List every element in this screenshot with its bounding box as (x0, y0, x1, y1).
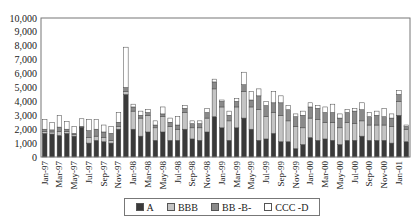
legend: A BBB BB -B- CCC -D (124, 198, 320, 216)
bar-segment (153, 121, 158, 125)
x-tick-label: Mar-97 (54, 161, 64, 188)
bar-segment (389, 126, 394, 143)
bar-segment (330, 140, 335, 157)
bar-segment (315, 108, 320, 119)
bar-segment (94, 136, 99, 140)
x-tick-label: Mar-99 (232, 161, 242, 188)
bar-segment (153, 140, 158, 157)
bar-segment (352, 108, 357, 111)
bar-segment (397, 90, 402, 94)
bar-segment (360, 110, 365, 121)
x-tick-label: May-00 (335, 161, 345, 190)
bar-segment (160, 107, 165, 114)
bar-segment (242, 92, 247, 118)
bar-segment (323, 122, 328, 139)
bar-segment (375, 140, 380, 157)
y-tick-label: 1,000 (15, 138, 38, 149)
bar-segment (65, 133, 70, 157)
bar-stack (175, 117, 180, 157)
bar-segment (389, 118, 394, 126)
bar-segment (168, 122, 173, 126)
bar-segment (308, 138, 313, 157)
bar-segment (175, 129, 180, 140)
bar-segment (131, 107, 136, 111)
y-tick-label: 9,000 (15, 26, 38, 37)
x-tick-label: May-98 (158, 161, 168, 190)
x-tick-label: Jan-97 (40, 161, 50, 185)
bar-segment (293, 117, 298, 127)
bar-segment (256, 89, 261, 96)
bar-stack (279, 96, 284, 157)
legend-label-bbb: BBB (178, 202, 198, 213)
bar-segment (79, 119, 84, 127)
bar-segment (160, 117, 165, 132)
bar-stack (323, 107, 328, 157)
bar-segment (234, 101, 239, 107)
bar-segment (301, 144, 306, 157)
bar-segment (168, 126, 173, 140)
bar-segment (42, 131, 47, 133)
bar-segment (197, 121, 202, 124)
bar-stack (190, 121, 195, 157)
bar-segment (382, 140, 387, 157)
y-tick-label: 10,000 (10, 13, 38, 24)
bar-segment (279, 142, 284, 157)
bar-segment (271, 113, 276, 134)
bar-segment (367, 140, 372, 157)
bar-stack (389, 114, 394, 157)
bar-stack (205, 108, 210, 157)
bar-segment (146, 132, 151, 157)
y-tick-label: 6,000 (15, 68, 38, 79)
bar-segment (234, 128, 239, 157)
y-tick-label: 3,000 (15, 110, 38, 121)
stacked-bar-chart: 01,0002,0003,0004,0005,0006,0007,0008,00… (0, 0, 417, 224)
bar-segment (345, 122, 350, 140)
x-tick-label: Jul-99 (261, 161, 271, 184)
bar-segment (227, 115, 232, 121)
bar-segment (234, 107, 239, 128)
bar-segment (94, 119, 99, 129)
bar-segment (242, 118, 247, 157)
bar-stack (138, 111, 143, 157)
bar-segment (124, 47, 129, 87)
bar-segment (109, 126, 114, 133)
x-tick-label: Sep-98 (187, 161, 197, 187)
bar-segment (249, 129, 254, 157)
bar-segment (338, 118, 343, 128)
bar-stack (264, 101, 269, 157)
bar-segment (197, 140, 202, 157)
bar-stack (42, 119, 47, 157)
y-tick-label: 7,000 (15, 54, 38, 65)
bar-segment (101, 125, 106, 132)
bar-segment (116, 113, 121, 123)
bar-segment (153, 128, 158, 141)
bar-segment (146, 113, 151, 116)
bar-segment (301, 128, 306, 145)
bar-segment (220, 100, 225, 101)
bar-segment (404, 142, 409, 157)
bar-stack (87, 119, 92, 157)
bar-segment (87, 119, 92, 130)
bar-stack (212, 79, 217, 157)
bar-stack (352, 108, 357, 157)
bar-segment (190, 121, 195, 124)
bar-stack (338, 114, 343, 157)
bar-segment (330, 113, 335, 123)
bar-segment (264, 101, 269, 105)
bar-segment (72, 136, 77, 157)
bar-stack (50, 122, 55, 157)
x-tick-label: Sep-99 (276, 161, 286, 187)
bar-segment (367, 113, 372, 117)
bar-segment (57, 135, 62, 157)
x-tick-label: Jan-98 (128, 161, 138, 185)
bar-segment (256, 110, 261, 141)
bars (42, 47, 408, 157)
bar-segment (404, 125, 409, 126)
bar-stack (286, 106, 291, 157)
bar-segment (279, 115, 284, 141)
bar-segment (57, 115, 62, 127)
bar-stack (168, 118, 173, 157)
bar-stack (220, 100, 225, 157)
bar-segment (220, 101, 225, 107)
legend-label-ccc-d: CCC -D (275, 202, 308, 213)
